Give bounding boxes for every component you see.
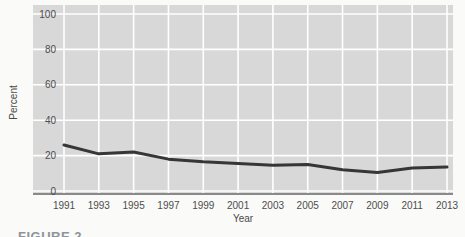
figure-caption: FIGURE 2 [18,229,82,237]
y-tick-label: 60 [45,79,57,90]
y-tick-label: 0 [50,186,56,197]
x-tick-label: 1999 [192,200,215,211]
x-tick-label: 1993 [88,200,111,211]
y-axis-title: Percent [8,85,19,120]
y-tick-label: 40 [45,115,57,126]
x-tick-label: 2009 [366,200,389,211]
x-tick-label: 2003 [262,200,285,211]
y-tick-label: 100 [39,9,56,20]
x-tick-label: 2007 [331,200,354,211]
percent-by-year-line-chart: 0204060801001991199319951997199920012003… [0,0,465,237]
figure-2-chart: 0204060801001991199319951997199920012003… [0,0,465,237]
x-axis-title: Year [233,213,254,224]
x-tick-label: 1991 [53,200,76,211]
x-tick-label: 1997 [157,200,180,211]
y-tick-label: 20 [45,150,57,161]
x-tick-label: 2005 [297,200,320,211]
y-tick-label: 80 [45,44,57,55]
x-tick-label: 2013 [436,200,459,211]
x-tick-label: 1995 [123,200,146,211]
x-tick-label: 2001 [227,200,250,211]
x-tick-label: 2011 [401,200,423,211]
